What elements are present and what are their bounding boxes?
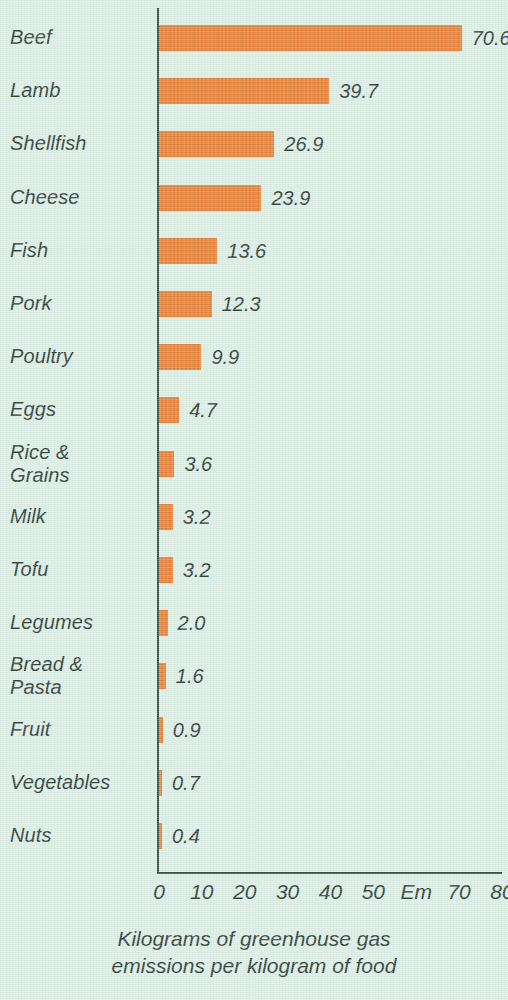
bar-value-label: 4.7 (189, 397, 217, 423)
bar (159, 663, 166, 689)
bar (159, 131, 274, 157)
bar-value-label: 2.0 (178, 610, 206, 636)
x-tick-label: 20 (233, 880, 256, 904)
bar (159, 397, 179, 423)
category-label: Legumes (10, 611, 150, 634)
x-axis-tick-labels: 01020304050Em7080 (0, 880, 508, 912)
category-label: Poultry (10, 345, 150, 368)
x-axis-line (157, 872, 502, 874)
bar (159, 451, 174, 477)
bar (159, 610, 168, 636)
y-axis-line (157, 8, 159, 874)
category-label: Rice & Grains (10, 441, 150, 487)
bar (159, 78, 329, 104)
category-label: Nuts (10, 824, 150, 847)
category-label: Lamb (10, 79, 150, 102)
plot-area: Beef70.6Lamb39.7Shellfish26.9Cheese23.9F… (0, 0, 508, 874)
bar-value-label: 0.7 (172, 770, 200, 796)
bar (159, 25, 462, 51)
bar-value-label: 26.9 (284, 131, 323, 157)
category-label: Milk (10, 505, 150, 528)
bar (159, 185, 261, 211)
greenhouse-gas-bar-chart: Beef70.6Lamb39.7Shellfish26.9Cheese23.9F… (0, 0, 508, 1000)
x-tick-label: 10 (190, 880, 213, 904)
category-label: Fruit (10, 718, 150, 741)
bar-value-label: 70.6 (472, 25, 508, 51)
x-tick-label: 0 (153, 880, 165, 904)
category-label: Beef (10, 26, 150, 49)
category-label: Shellfish (10, 132, 150, 155)
bar-value-label: 13.6 (227, 238, 266, 264)
x-tick-label: 80 (490, 880, 508, 904)
bar (159, 504, 173, 530)
bar (159, 557, 173, 583)
x-tick-label: 70 (447, 880, 470, 904)
category-label: Bread & Pasta (10, 653, 150, 699)
bar-value-label: 23.9 (271, 185, 310, 211)
bar (159, 717, 163, 743)
bar-value-label: 9.9 (211, 344, 239, 370)
category-label: Fish (10, 239, 150, 262)
bar-value-label: 0.4 (172, 823, 200, 849)
category-label: Cheese (10, 186, 150, 209)
bar (159, 344, 201, 370)
category-label: Vegetables (10, 771, 150, 794)
bar-value-label: 3.2 (183, 504, 211, 530)
bar (159, 770, 162, 796)
bar (159, 823, 162, 849)
category-label: Pork (10, 292, 150, 315)
bar-value-label: 3.6 (184, 451, 212, 477)
bar (159, 291, 212, 317)
x-tick-label: Em (401, 880, 433, 904)
x-axis-caption: Kilograms of greenhouse gas emissions pe… (0, 925, 508, 979)
x-tick-label: 50 (362, 880, 385, 904)
category-label: Tofu (10, 558, 150, 581)
x-tick-label: 40 (319, 880, 342, 904)
bar-value-label: 1.6 (176, 663, 204, 689)
bar-value-label: 0.9 (173, 717, 201, 743)
bar (159, 238, 217, 264)
bar-value-label: 39.7 (339, 78, 378, 104)
x-tick-label: 30 (276, 880, 299, 904)
bar-value-label: 3.2 (183, 557, 211, 583)
category-label: Eggs (10, 398, 150, 421)
bar-value-label: 12.3 (222, 291, 261, 317)
